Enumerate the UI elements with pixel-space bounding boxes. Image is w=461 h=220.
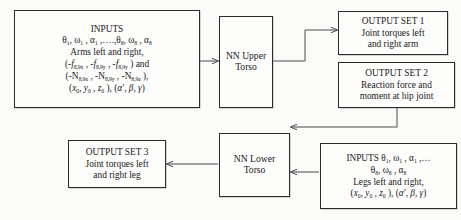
- output-2-title: OUTPUT SET 2: [365, 68, 428, 79]
- block-inputs-upper: INPUTS θ1, ω1 , α1 ,….,θ8, ω8 , α8 Arms …: [14, 10, 200, 108]
- output-3-line2: Joint torques left: [85, 159, 148, 170]
- inputs-upper-force-terms: (-f8,9x , -f8,9y , -f8,9y ) and: [65, 59, 149, 70]
- inputs-lower-heading-vars: INPUTS θ1, ω1 , α1 ,…: [346, 153, 430, 164]
- output-3-line3: and right leg: [93, 170, 140, 181]
- inputs-upper-state-vars: θ1, ω1 , α1 ,….,θ8, ω8 , α8: [62, 35, 151, 46]
- output-1-line2: Joint torques left: [361, 28, 424, 39]
- output-3-title: OUTPUT SET 3: [86, 147, 149, 158]
- output-2-line3: moment at hip joint: [360, 91, 434, 102]
- block-output-set-2: OUTPUT SET 2 Reaction force and moment a…: [338, 62, 455, 108]
- output-1-title: OUTPUT SET 1: [362, 16, 425, 27]
- inputs-lower-vars-8: θ8, ω8 , α8: [371, 165, 406, 176]
- block-inputs-lower: INPUTS θ1, ω1 , α1 ,… θ8, ω8 , α8 Legs l…: [320, 143, 457, 209]
- inputs-upper-position-orientation: (x0, y0 , z0 ), (α′, β, γ): [69, 83, 145, 94]
- inputs-upper-moment-terms: (-N8,9x , -N8,9y , -N8,9z ),: [66, 71, 149, 82]
- output-2-line2: Reaction force and: [361, 80, 432, 91]
- block-output-set-1: OUTPUT SET 1 Joint torques left and righ…: [338, 11, 448, 55]
- arrow-output-2-to-nn-lower: [291, 108, 397, 127]
- diagram-canvas: INPUTS θ1, ω1 , α1 ,….,θ8, ω8 , α8 Arms …: [0, 0, 461, 220]
- nn-upper-line2: Torso: [235, 62, 257, 73]
- inputs-upper-arms-label: Arms left and right,: [70, 47, 143, 57]
- inputs-lower-position-orientation: (x0, y0 , z0 ), (α′, β, γ): [351, 188, 427, 199]
- output-1-line3: and right arm: [368, 39, 419, 50]
- nn-lower-line2: Torso: [244, 165, 266, 176]
- block-output-set-3: OUTPUT SET 3 Joint torques left and righ…: [68, 140, 166, 188]
- block-nn-upper-torso: NN Upper Torso: [219, 16, 273, 108]
- inputs-lower-legs-label: Legs left and right,: [353, 177, 424, 187]
- block-nn-lower-torso: NN Lower Torso: [219, 133, 290, 197]
- arrow-nn-upper-to-output-1: [273, 30, 337, 61]
- inputs-upper-heading: INPUTS: [91, 24, 124, 34]
